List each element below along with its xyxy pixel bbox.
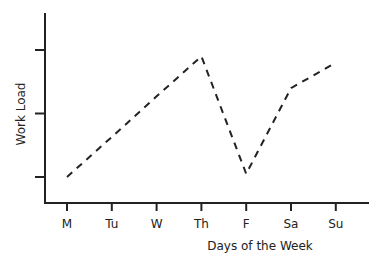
axes — [44, 13, 369, 204]
x-ticks: MTuWThFSaSu — [62, 203, 344, 231]
x-tick-label: Th — [193, 217, 209, 231]
x-tick-label: F — [243, 217, 250, 231]
x-tick-label: Su — [328, 217, 343, 231]
line-chart: MTuWThFSaSu Days of the Week Work Load — [0, 0, 381, 267]
y-ticks — [35, 50, 45, 177]
work-load-line — [67, 56, 336, 177]
x-tick-label: M — [62, 217, 72, 231]
x-tick-label: W — [151, 217, 163, 231]
x-tick-label: Sa — [284, 217, 299, 231]
x-axis-label: Days of the Week — [207, 239, 313, 253]
x-tick-label: Tu — [104, 217, 118, 231]
y-axis-label: Work Load — [14, 83, 28, 146]
